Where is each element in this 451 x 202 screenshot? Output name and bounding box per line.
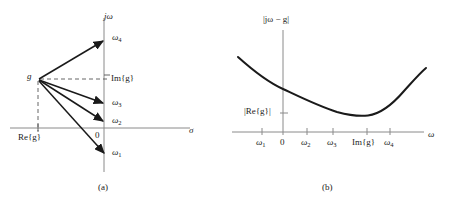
panel-b-graphic	[0, 0, 451, 202]
panel-b-yaxis-label: |jω − g|	[263, 15, 289, 24]
xtick-label-omega3: ω3	[327, 138, 337, 149]
figure-container: jω σ g Im{g} Re{g} 0 ω4 ω3 ω2 ω1 (a)	[0, 0, 451, 202]
xtick-label-omega1: ω1	[256, 138, 266, 149]
panel-b-caption: (b)	[322, 182, 333, 192]
xtick-label-zero: 0	[280, 138, 285, 147]
xtick-label-img: Im{g}	[352, 138, 375, 147]
xtick-label-omega4: ω4	[384, 138, 394, 149]
panel-b-xaxis-label: ω	[428, 130, 434, 139]
ytick-label-reg: |Re{g}|	[244, 107, 271, 116]
xtick-label-omega2: ω2	[301, 138, 311, 149]
